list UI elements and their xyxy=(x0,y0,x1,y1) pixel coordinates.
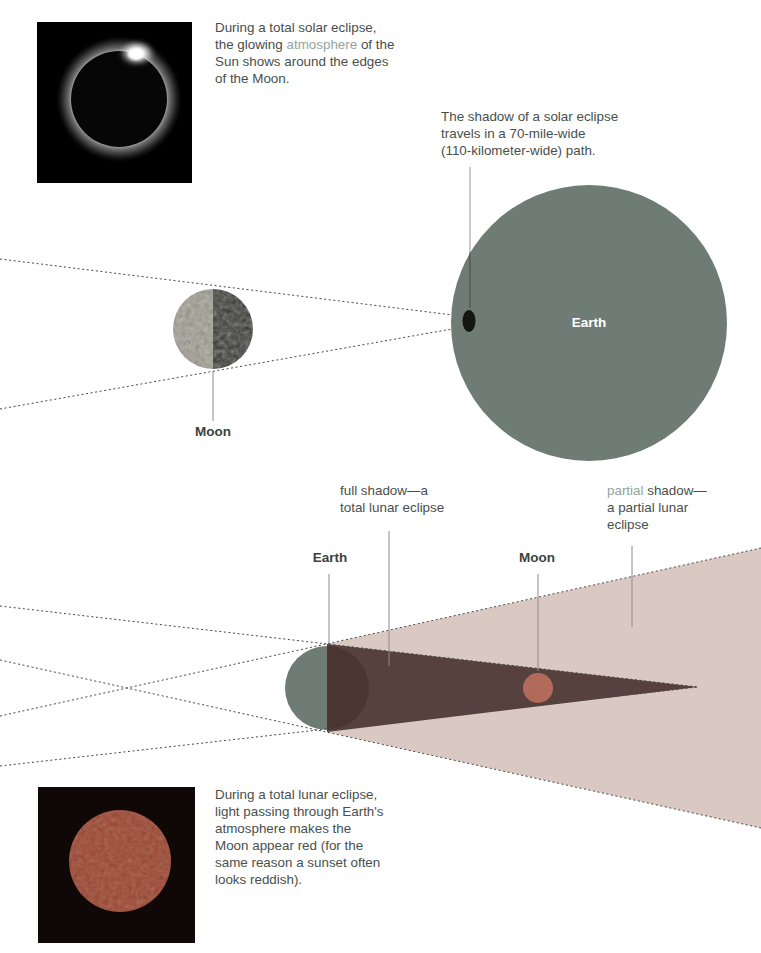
solar-shadow-note: The shadow of a solar eclipsetravels in … xyxy=(441,108,656,159)
lunar-eclipse-diagram xyxy=(0,531,761,828)
moon-texture-dark xyxy=(173,289,253,369)
solar-eclipse-photo xyxy=(37,22,192,183)
lunar-eclipse-photo xyxy=(38,787,195,943)
moon-in-umbra xyxy=(523,673,553,703)
lunar-photo-caption: During a total lunar eclipse,light passi… xyxy=(215,786,440,888)
moon-label-lunar: Moon xyxy=(497,550,577,565)
full-shadow-label: full shadow—atotal lunar eclipse xyxy=(340,482,470,516)
earth-lit-half xyxy=(285,646,327,730)
moon-label-solar: Moon xyxy=(173,424,253,439)
eclipse-shadow-spot xyxy=(463,310,476,332)
red-moon-texture xyxy=(523,673,553,703)
eclipse-diagram-page: During a total solar eclipse,the glowing… xyxy=(0,0,761,953)
red-moon-photo-texture-light xyxy=(69,810,171,912)
solar-photo-caption: During a total solar eclipse,the glowing… xyxy=(215,19,440,87)
moon-silhouette xyxy=(71,51,167,147)
earth-label-solar: Earth xyxy=(549,315,629,330)
partial-shadow-label: partial shadow—a partial lunareclipse xyxy=(607,482,727,533)
solar-eclipse-diagram xyxy=(0,167,727,461)
earth-label-lunar: Earth xyxy=(290,550,370,565)
moon-solar-diagram xyxy=(173,289,253,369)
diamond-ring-flare xyxy=(128,48,144,60)
